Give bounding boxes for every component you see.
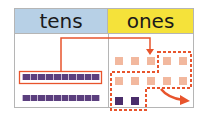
arrow-head-icon — [146, 49, 154, 55]
dashed-group-outline — [111, 52, 191, 110]
connector-arrow — [61, 38, 150, 71]
regroup-arrow-head-icon — [180, 95, 190, 105]
tens-rod-highlight — [20, 72, 102, 84]
regroup-annotations — [0, 0, 206, 116]
regroup-arrow — [161, 89, 183, 100]
